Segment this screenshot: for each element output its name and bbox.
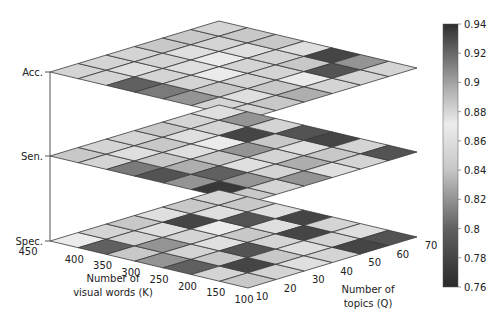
heatmap-plane-sen — [50, 105, 417, 203]
colorbar-gradient — [443, 24, 458, 287]
colorbar-tick-label: 0.9 — [464, 77, 480, 88]
q-tick-label: 10 — [256, 291, 269, 302]
k-tick-label: 450 — [18, 246, 37, 257]
layer-label: Acc. — [22, 67, 43, 78]
q-tick-label: 20 — [284, 283, 297, 294]
heatmap-plane-acc — [50, 21, 417, 119]
colorbar-tick-label: 0.82 — [464, 194, 486, 205]
layer-label: Sen. — [21, 151, 43, 162]
colorbar-tick-label: 0.88 — [464, 107, 486, 118]
q-tick-label: 50 — [368, 257, 381, 268]
q-tick-label: 30 — [312, 274, 325, 285]
k-tick-label: 150 — [206, 287, 225, 298]
colorbar: 0.940.920.90.880.860.840.820.80.780.76 — [443, 19, 486, 293]
k-axis-label-line2: visual words (K) — [73, 287, 153, 298]
colorbar-tick-label: 0.86 — [464, 136, 486, 147]
heatmap-planes — [50, 21, 417, 288]
q-axis-label-line1: Number of — [342, 284, 395, 295]
stacked-heatmap-chart: Acc.Sen.Spec. 450400350300250200150100 1… — [0, 0, 503, 327]
layer-labels: Acc.Sen.Spec. — [15, 67, 50, 247]
k-tick-label: 250 — [150, 274, 169, 285]
q-tick-label: 40 — [340, 266, 353, 277]
colorbar-tick-label: 0.84 — [464, 165, 486, 176]
colorbar-tick-label: 0.76 — [464, 282, 486, 293]
k-tick-label: 100 — [234, 294, 253, 305]
k-axis-label-line1: Number of — [87, 273, 140, 284]
k-tick-label: 350 — [93, 260, 112, 271]
colorbar-tick-label: 0.94 — [464, 19, 486, 30]
k-tick-label: 200 — [178, 281, 197, 292]
colorbar-tick-label: 0.8 — [464, 224, 480, 235]
q-tick-label: 60 — [396, 249, 409, 260]
q-tick-label: 70 — [425, 240, 438, 251]
colorbar-tick-label: 0.92 — [464, 48, 486, 59]
k-tick-label: 400 — [65, 254, 84, 265]
q-axis-label-line2: topics (Q) — [344, 298, 393, 309]
colorbar-tick-label: 0.78 — [464, 253, 486, 264]
